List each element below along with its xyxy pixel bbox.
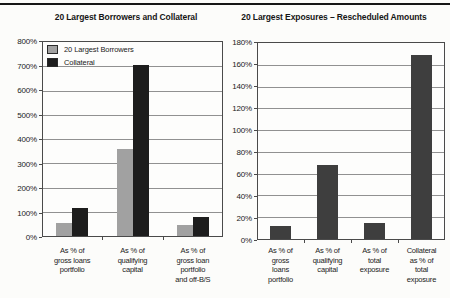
- category-label-1: As % of qualifying capital: [303, 246, 353, 275]
- legend-swatch-icon: [47, 58, 58, 67]
- y-axis-label-0: 0%: [11, 233, 37, 242]
- y-axis-tick: [39, 188, 42, 189]
- y-axis-tick: [39, 66, 42, 67]
- bar-series0-cat2: [177, 225, 193, 236]
- bar-series0-cat1: [317, 165, 338, 239]
- top-rule: [0, 3, 450, 5]
- bar-series1-cat2: [193, 217, 209, 237]
- y-axis-label-100: 100%: [11, 208, 37, 217]
- bar-series1-cat1: [133, 65, 149, 236]
- category-label-3: Collateral as % of total exposure: [397, 246, 447, 284]
- y-axis-label-40: 40%: [226, 192, 252, 201]
- y-axis-tick: [254, 42, 257, 43]
- y-axis-label-160: 160%: [226, 60, 252, 69]
- y-axis-tick: [254, 108, 257, 109]
- y-axis-label-180: 180%: [226, 38, 252, 47]
- y-axis-label-600: 600%: [11, 86, 37, 95]
- figure-page: 20 Largest Borrowers and Collateral 0%10…: [0, 0, 450, 298]
- bar-series0-cat1: [117, 149, 133, 236]
- y-axis-label-700: 700%: [11, 61, 37, 70]
- x-axis-tick: [398, 240, 399, 243]
- y-axis-tick: [254, 130, 257, 131]
- y-axis-label-60: 60%: [226, 170, 252, 179]
- y-axis-label-140: 140%: [226, 82, 252, 91]
- y-axis-tick: [39, 237, 42, 238]
- x-axis-tick: [163, 237, 164, 240]
- y-axis-label-500: 500%: [11, 110, 37, 119]
- x-axis-tick: [102, 237, 103, 240]
- y-axis-tick: [254, 240, 257, 241]
- category-label-0: As % of gross loans portfolio: [256, 246, 306, 284]
- chart-title-borrowers-collateral: 20 Largest Borrowers and Collateral: [55, 12, 197, 22]
- bar-series0-cat2: [364, 223, 385, 239]
- chart-title-exposures-rescheduled: 20 Largest Exposures – Rescheduled Amoun…: [241, 12, 426, 22]
- y-axis-label-100: 100%: [226, 126, 252, 135]
- y-axis-label-800: 800%: [11, 37, 37, 46]
- y-axis-label-400: 400%: [11, 135, 37, 144]
- y-axis-tick: [39, 115, 42, 116]
- y-axis-label-300: 300%: [11, 159, 37, 168]
- bar-series1-cat0: [72, 208, 88, 236]
- legend-swatch-icon: [47, 45, 58, 54]
- category-label-2: As % of total exposure: [350, 246, 400, 275]
- y-axis-tick: [254, 218, 257, 219]
- y-axis-tick: [254, 152, 257, 153]
- y-axis-tick: [39, 41, 42, 42]
- bar-series0-cat0: [56, 223, 72, 236]
- category-label-2: As % of gross loan portfolio and off-B/S: [162, 246, 224, 284]
- y-axis-label-20: 20%: [226, 214, 252, 223]
- y-axis-label-200: 200%: [11, 184, 37, 193]
- y-axis-tick: [254, 174, 257, 175]
- y-axis-tick: [254, 64, 257, 65]
- y-axis-tick: [254, 196, 257, 197]
- category-label-0: As % of gross loans portfolio: [41, 246, 103, 275]
- y-axis-tick: [39, 139, 42, 140]
- y-axis-tick: [254, 86, 257, 87]
- x-axis-tick: [304, 240, 305, 243]
- y-axis-label-120: 120%: [226, 104, 252, 113]
- bar-series0-cat0: [270, 226, 291, 239]
- y-axis-tick: [39, 90, 42, 91]
- bar-series0-cat3: [411, 55, 432, 239]
- x-axis-tick: [351, 240, 352, 243]
- category-label-1: As % of qualifying capital: [102, 246, 164, 275]
- y-axis-tick: [39, 213, 42, 214]
- y-axis-label-80: 80%: [226, 148, 252, 157]
- legend-label-1: Collateral: [64, 57, 95, 68]
- y-axis-label-0: 0%: [226, 236, 252, 245]
- legend-label-0: 20 Largest Borrowers: [64, 44, 134, 55]
- y-axis-tick: [39, 164, 42, 165]
